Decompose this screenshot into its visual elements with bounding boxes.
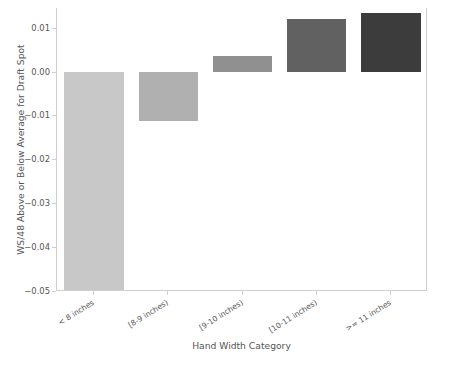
x-tick-mark xyxy=(93,291,94,295)
x-axis-title: Hand Width Category xyxy=(56,340,427,351)
x-tick-mark xyxy=(242,291,243,295)
x-tick-label: [10-11 inches) xyxy=(267,298,318,335)
y-tick-label: 0.00 xyxy=(6,66,50,78)
x-tick-mark xyxy=(316,291,317,295)
bar xyxy=(139,72,198,121)
x-tick-label: >= 11 inches xyxy=(344,298,393,333)
y-tick-label: −0.01 xyxy=(6,109,50,121)
x-tick-mark xyxy=(390,291,391,295)
x-tick-label: [8-9 inches) xyxy=(127,298,170,330)
y-tick-label: 0.01 xyxy=(6,22,50,34)
bar xyxy=(361,13,420,71)
y-tick-label: −0.03 xyxy=(6,197,50,209)
y-tick-label: −0.05 xyxy=(6,285,50,297)
y-tick-label: −0.02 xyxy=(6,153,50,165)
bar-chart-figure: WS/48 Above or Below Average for Draft S… xyxy=(0,0,451,367)
y-tick-mark xyxy=(52,291,56,292)
y-tick-label: −0.04 xyxy=(6,241,50,253)
bar xyxy=(287,19,346,72)
plot-area xyxy=(56,8,427,291)
x-tick-label: < 8 inches xyxy=(57,298,96,327)
x-tick-mark xyxy=(167,291,168,295)
x-tick-label: [9-10 inches) xyxy=(197,298,244,332)
bar xyxy=(64,72,123,290)
bar xyxy=(213,56,272,72)
